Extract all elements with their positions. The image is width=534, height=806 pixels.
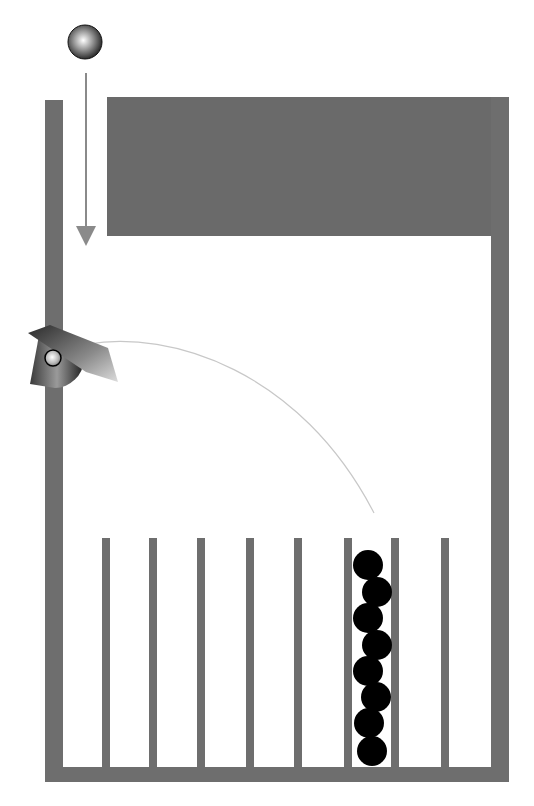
left-wall [45, 100, 63, 782]
bin-divider [102, 538, 110, 767]
bin-divider [197, 538, 205, 767]
trajectory-arc [88, 341, 374, 513]
stacked-ball [353, 603, 383, 633]
bin-dividers [102, 538, 449, 767]
stacked-ball [353, 550, 383, 580]
stacked-ball [361, 682, 391, 712]
stacked-ball [362, 577, 392, 607]
launcher [28, 325, 118, 388]
bin-divider [391, 538, 399, 767]
stacked-ball [354, 708, 384, 738]
bin-divider [441, 538, 449, 767]
falling-ball [68, 25, 102, 59]
bin-divider [294, 538, 302, 767]
top-block [107, 97, 509, 236]
diagram-canvas [0, 0, 534, 806]
bin-divider [246, 538, 254, 767]
right-wall [491, 97, 509, 782]
stacked-balls [353, 550, 392, 766]
stacked-ball [357, 736, 387, 766]
stacked-ball [353, 656, 383, 686]
launcher-ball [45, 350, 61, 366]
container [45, 97, 509, 782]
stacked-ball [362, 630, 392, 660]
bin-divider [149, 538, 157, 767]
floor [45, 767, 509, 782]
bin-divider [344, 538, 352, 767]
